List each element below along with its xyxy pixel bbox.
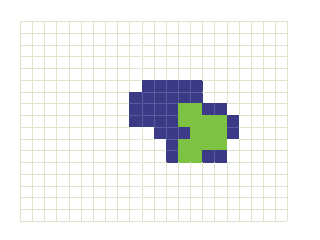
blue-cell	[142, 80, 155, 92]
grid-line-vertical	[69, 21, 70, 33]
grid-line-horizontal	[105, 103, 117, 104]
grid-line-vertical	[263, 127, 264, 139]
grid-line-vertical	[214, 33, 215, 45]
blue-cell	[142, 92, 155, 104]
grid-line-horizontal	[251, 186, 263, 187]
grid-line-vertical	[44, 150, 45, 162]
grid-line-vertical	[105, 139, 106, 151]
grid-line-vertical	[275, 92, 276, 104]
grid-line-horizontal	[129, 139, 141, 140]
grid-line-horizontal	[239, 174, 251, 175]
grid-line-vertical	[178, 68, 179, 80]
grid-line-horizontal	[69, 197, 81, 198]
grid-line-horizontal	[105, 45, 117, 46]
grid-line-horizontal	[20, 56, 32, 57]
grid-line-vertical	[69, 127, 70, 139]
grid-line-vertical	[69, 162, 70, 174]
grid-line-horizontal	[81, 197, 93, 198]
grid-line-vertical	[105, 56, 106, 68]
grid-line-horizontal	[56, 174, 68, 175]
grid-line-horizontal	[44, 127, 56, 128]
blue-cell	[129, 92, 142, 104]
grid-line-vertical	[56, 33, 57, 45]
grid-line-horizontal	[117, 92, 129, 93]
grid-line-vertical	[166, 68, 167, 80]
grid-line-horizontal	[44, 45, 56, 46]
grid-line-horizontal	[32, 92, 44, 93]
grid-line-horizontal	[44, 197, 56, 198]
grid-line-vertical	[93, 150, 94, 162]
grid-line-horizontal	[239, 139, 251, 140]
grid-line-vertical	[44, 127, 45, 139]
grid-line-vertical	[117, 103, 118, 115]
grid-line-vertical	[239, 162, 240, 174]
grid-line-vertical	[44, 56, 45, 68]
grid-line-horizontal	[117, 197, 129, 198]
grid-line-vertical	[239, 56, 240, 68]
grid-line-vertical	[263, 139, 264, 151]
grid-line-horizontal	[142, 56, 154, 57]
grid-line-vertical	[129, 127, 130, 139]
grid-line-vertical	[166, 115, 167, 127]
grid-line-horizontal	[190, 186, 202, 187]
grid-line-vertical	[154, 150, 155, 162]
grid-line-vertical	[105, 197, 106, 209]
grid-line-horizontal	[56, 80, 68, 81]
grid-line-horizontal	[81, 150, 93, 151]
grid-line-vertical	[251, 45, 252, 57]
grid-line-vertical	[275, 174, 276, 186]
grid-line-horizontal	[129, 80, 141, 81]
grid-line-horizontal	[239, 21, 251, 22]
grid-line-vertical	[117, 115, 118, 127]
grid-line-horizontal	[227, 174, 239, 175]
grid-line-horizontal	[93, 68, 105, 69]
grid-line-horizontal	[81, 56, 93, 57]
grid-line-vertical	[251, 80, 252, 92]
grid-line-vertical	[239, 186, 240, 198]
grid-line-horizontal	[56, 45, 68, 46]
grid-line-vertical	[20, 45, 21, 57]
grid-line-horizontal	[239, 103, 251, 104]
grid-line-horizontal	[202, 80, 214, 81]
grid-line-vertical	[214, 56, 215, 68]
grid-line-vertical	[105, 174, 106, 186]
grid-line-horizontal	[251, 115, 263, 116]
green-cell	[190, 127, 203, 139]
grid-line-horizontal	[178, 21, 190, 22]
grid-line-vertical	[178, 197, 179, 209]
grid-line-vertical	[239, 45, 240, 57]
grid-line-horizontal	[93, 115, 105, 116]
grid-line-vertical	[105, 115, 106, 127]
blue-cell	[166, 139, 179, 151]
grid-line-horizontal	[142, 162, 154, 163]
grid-line-horizontal	[32, 45, 44, 46]
blue-cell	[178, 127, 191, 139]
grid-line-vertical	[81, 174, 82, 186]
grid-line-vertical	[56, 197, 57, 209]
grid-line-vertical	[129, 21, 130, 33]
grid-line-horizontal	[93, 45, 105, 46]
grid-line-horizontal	[178, 197, 190, 198]
grid-line-vertical	[202, 162, 203, 174]
grid-line-vertical	[93, 21, 94, 33]
grid-line-horizontal	[166, 186, 178, 187]
grid-line-vertical	[117, 186, 118, 198]
grid-line-horizontal	[214, 21, 226, 22]
grid-line-horizontal	[251, 209, 263, 210]
grid-line-horizontal	[117, 68, 129, 69]
grid-line-horizontal	[202, 174, 214, 175]
grid-line-vertical	[166, 127, 167, 139]
grid-line-horizontal	[93, 92, 105, 93]
grid-line-horizontal	[166, 92, 178, 93]
grid-line-horizontal	[129, 186, 141, 187]
grid-line-vertical	[20, 162, 21, 174]
grid-line-horizontal	[69, 21, 81, 22]
grid-line-horizontal	[44, 221, 56, 222]
grid-line-vertical	[20, 209, 21, 221]
grid-line-horizontal	[56, 162, 68, 163]
grid-line-vertical	[166, 45, 167, 57]
grid-line-horizontal	[202, 209, 214, 210]
grid-line-vertical	[166, 92, 167, 104]
grid-line-horizontal	[263, 45, 275, 46]
grid-line-vertical	[287, 209, 288, 221]
